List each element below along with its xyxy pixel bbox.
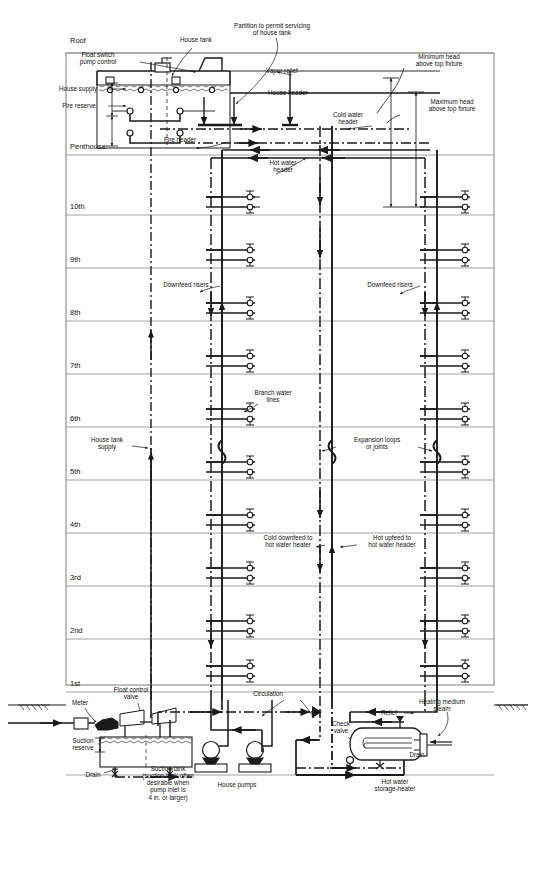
floor-label-f6: 6th [70, 415, 80, 424]
annotation-branch-water-lines: Branch waterlines [213, 389, 333, 403]
annotation-meter: Meter [20, 699, 140, 706]
annotation-minimum-head: Minimum headabove top fixture [379, 53, 499, 67]
annotation-house-tank-supply: House tanksupply [47, 436, 167, 450]
fixture-group [420, 403, 470, 425]
floor-label-f7: 7th [70, 362, 80, 371]
fixture-group [206, 456, 255, 478]
fixture-group [420, 509, 470, 531]
diagram-page: RoofPenthouse10th9th8th7th6th5th4th3rd2n… [0, 0, 534, 881]
annotation-house-supply: House supply [18, 85, 138, 92]
annotation-fire-header: Fire header [120, 136, 240, 143]
annotation-circulation: Circulation [208, 690, 328, 697]
fixture-group [420, 660, 470, 682]
fixture-group [420, 562, 470, 584]
floor-label-f9: 9th [70, 256, 80, 265]
annotation-house-tank: House tank [136, 36, 256, 43]
fixture-group [420, 350, 470, 372]
fixture-group [420, 244, 470, 266]
piping-headers [151, 62, 440, 700]
annotation-suction-reserve: Suctionreserve [23, 737, 143, 751]
annotation-house-pumps: House pumps [177, 781, 297, 788]
floor-label-f2: 2nd [70, 627, 83, 636]
fixture-group [206, 191, 260, 213]
fixture-group [420, 191, 470, 213]
floor-label-f5: 5th [70, 468, 80, 477]
fixture-group [206, 562, 255, 584]
check-valve-icon [332, 757, 353, 768]
floor-label-penthouse: Penthouse [70, 143, 106, 152]
floor-label-f10: 10th [70, 203, 85, 212]
fixture-group [420, 297, 470, 319]
floor-label-f3: 3rd [70, 574, 81, 583]
fixture-group [206, 297, 255, 319]
annotation-fire-reserve: Fire reserve [19, 102, 139, 109]
annotation-float-switch: Float switchpump control [38, 51, 158, 65]
annotation-downfeed-risers-left: Downfeed risers [126, 281, 246, 288]
fixture-group [206, 403, 255, 425]
heater-drain-valve [376, 760, 384, 769]
fixture-group [206, 509, 255, 531]
annotation-float-control-valve: Float controlvalve [71, 686, 191, 700]
fixture-group [206, 350, 255, 372]
annotation-house-header: House header [268, 89, 308, 96]
annotation-cold-water-header: Cold waterheader [288, 111, 408, 125]
fixture-group [420, 615, 470, 637]
riser-pipes [211, 126, 441, 700]
annotation-hot-water-storage: Hot waterstorage-heater [335, 778, 455, 792]
fixture-group [206, 615, 255, 637]
annotation-vapor-relief: Vapor relief [266, 67, 298, 74]
annotation-expansion-loops: Expansion loopsor joints [317, 436, 437, 450]
house-pump-2 [239, 700, 272, 772]
annotation-hot-water-header: Hot waterheader [223, 159, 343, 173]
annotation-check-valve: Checkvalve [281, 720, 401, 734]
head-dimension-right [377, 68, 424, 207]
fixture-group [206, 660, 255, 682]
annotation-cold-downfeed: Cold downfeed tohot water heater [228, 534, 348, 548]
floor-label-roof: Roof [70, 37, 86, 46]
annotation-heating-medium: Heating mediumsteam [382, 698, 502, 712]
floor-label-f4: 4th [70, 521, 80, 530]
annotation-hot-upfeed: Hot upfeed tohot water header [332, 534, 452, 548]
annotation-downfeed-risers-right: Downfeed risers [330, 281, 450, 288]
annotation-maximum-head: Maximum headabove top fixture [392, 98, 512, 112]
fixture-group [420, 456, 470, 478]
floor-label-f8: 8th [70, 309, 80, 318]
fixture-group [206, 244, 255, 266]
annotation-partition: Partition to permit servicingof house ta… [212, 22, 332, 36]
annotation-drain-right: Drain [357, 751, 477, 758]
